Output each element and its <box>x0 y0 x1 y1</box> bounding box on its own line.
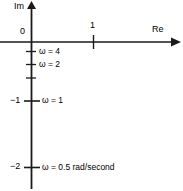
real-axis <box>0 38 181 47</box>
imaginary-axis-label: Im <box>14 2 24 11</box>
annotation-omega-0-5: ω = 0.5 rad/second <box>42 163 115 172</box>
annotation-omega-4: ω = 4 <box>39 47 60 56</box>
real-axis-label: Re <box>152 25 164 34</box>
annotation-omega-2: ω = 2 <box>39 60 60 69</box>
real-tick-label-1: 1 <box>90 21 95 30</box>
imaginary-tick-label-minus-2: −2 <box>10 162 20 171</box>
complex-plane-figure: Im Re 0 1 −1 −2 ω = 4 ω = 2 ω = 1 ω = 0.… <box>0 0 183 191</box>
imaginary-axis <box>27 1 36 189</box>
origin-label: 0 <box>20 27 25 36</box>
imaginary-tick-label-minus-1: −1 <box>10 96 20 105</box>
annotation-omega-1: ω = 1 <box>42 96 63 105</box>
